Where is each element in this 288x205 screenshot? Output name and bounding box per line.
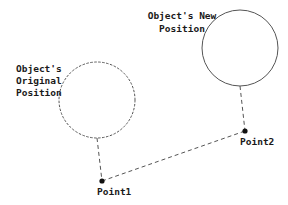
connector-new-to-point2 <box>240 86 245 131</box>
point2-label: Point2 <box>240 136 274 147</box>
point1-marker <box>99 178 104 183</box>
new-position-label-line2: Position <box>159 23 205 34</box>
original-position-label-line3: Position <box>16 87 62 98</box>
original-position-label-line1: Object's <box>16 63 62 74</box>
connector-original-to-point1 <box>97 138 102 181</box>
point2-marker <box>242 128 247 133</box>
original-position-circle <box>59 62 135 138</box>
new-position-label-line1: Object's New <box>148 10 217 21</box>
original-position-label-line2: Original <box>16 75 62 86</box>
new-position-circle <box>202 10 278 86</box>
connector-point1-to-point2 <box>102 131 245 181</box>
point1-label: Point1 <box>97 186 132 197</box>
diagram-canvas: Object's Original Position Object's New … <box>0 0 288 205</box>
